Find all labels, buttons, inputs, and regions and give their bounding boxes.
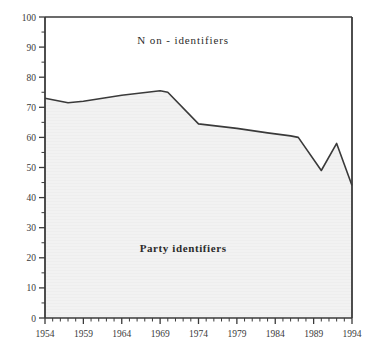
- annotation-non-identifiers: N on - identifiers: [137, 34, 229, 46]
- y-tick-label-90: 90: [27, 43, 37, 53]
- y-tick-label-10: 10: [27, 283, 37, 293]
- x-axis-tick-labels: 195419591964196919741979198419891994: [36, 329, 362, 339]
- x-tick-label-1994: 1994: [343, 329, 362, 339]
- x-tick-label-1969: 1969: [151, 329, 170, 339]
- y-tick-label-100: 100: [22, 13, 37, 23]
- x-tick-label-1954: 1954: [36, 329, 55, 339]
- x-tick-label-1989: 1989: [304, 329, 323, 339]
- annotation-party-identifiers: Party identifiers: [140, 242, 227, 254]
- y-tick-label-30: 30: [27, 223, 37, 233]
- y-tick-label-40: 40: [27, 193, 37, 203]
- x-tick-label-1984: 1984: [266, 329, 285, 339]
- y-tick-label-20: 20: [27, 253, 37, 263]
- y-tick-label-60: 60: [27, 133, 37, 143]
- chart-container: 195419591964196919741979198419891994 010…: [0, 0, 381, 357]
- y-tick-label-70: 70: [27, 103, 37, 113]
- y-tick-label-50: 50: [27, 163, 37, 173]
- area-chart: 195419591964196919741979198419891994 010…: [0, 0, 381, 357]
- x-tick-label-1959: 1959: [74, 329, 93, 339]
- y-tick-label-0: 0: [31, 314, 36, 324]
- x-tick-label-1979: 1979: [227, 329, 246, 339]
- y-tick-label-80: 80: [27, 73, 37, 83]
- x-tick-label-1974: 1974: [189, 329, 208, 339]
- x-tick-label-1964: 1964: [112, 329, 131, 339]
